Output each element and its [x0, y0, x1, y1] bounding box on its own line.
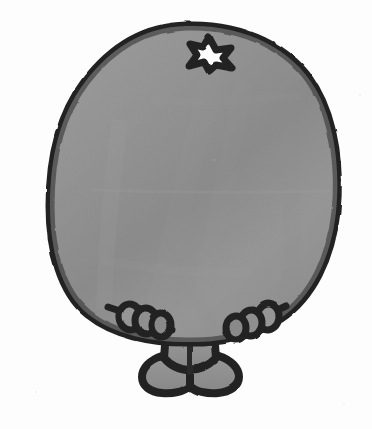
illustration-canvas: Hand-drawn cartoon character Round gray …	[0, 0, 372, 429]
right-finger-3	[225, 315, 247, 340]
character-drawing	[0, 0, 372, 429]
left-finger-3	[150, 312, 172, 337]
